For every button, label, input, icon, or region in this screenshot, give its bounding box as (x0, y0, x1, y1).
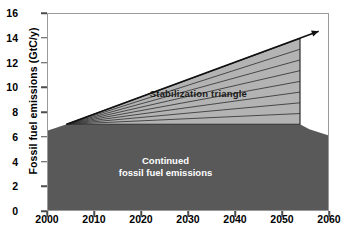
x-tick-mark-2020 (140, 211, 142, 217)
x-tick-mark-2050 (281, 211, 283, 217)
trend-arrow-head (311, 31, 319, 37)
continued-emissions-label-line2: fossil fuel emissions (119, 167, 212, 178)
x-tick-mark-2010 (93, 211, 95, 217)
chart-canvas (48, 14, 328, 210)
y-tick-label-4: 4 (0, 156, 18, 168)
x-tick-mark-2040 (234, 211, 236, 217)
stabilization-triangle-label: Stabilization triangle (150, 88, 247, 99)
y-axis-title: Fossil fuel emissions (GtC/y) (27, 6, 39, 196)
continued-emissions-label: Continued fossil fuel emissions (119, 155, 212, 179)
y-tick-label-14: 14 (0, 32, 18, 44)
y-tick-label-12: 12 (0, 57, 18, 69)
plot-area: Stabilization triangle Continued fossil … (47, 13, 329, 211)
chart-figure: Fossil fuel emissions (GtC/y) 1614121086… (0, 0, 349, 239)
y-tick-label-6: 6 (0, 131, 18, 143)
y-tick-label-2: 2 (0, 180, 18, 192)
y-tick-label-8: 8 (0, 106, 18, 118)
x-tick-mark-2060 (328, 211, 330, 217)
x-tick-mark-2030 (187, 211, 189, 217)
continued-emissions-label-line1: Continued (142, 155, 189, 166)
y-tick-label-10: 10 (0, 81, 18, 93)
y-tick-label-16: 16 (0, 7, 18, 19)
y-tick-label-0: 0 (0, 205, 18, 217)
x-tick-mark-2000 (46, 211, 48, 217)
